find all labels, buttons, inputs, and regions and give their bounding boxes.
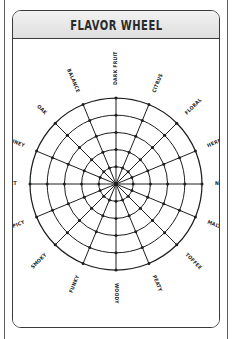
radar-node <box>67 202 70 205</box>
radar-node <box>201 183 204 186</box>
radar-node <box>166 183 169 186</box>
radar-node <box>178 156 181 159</box>
radar-node <box>99 176 102 179</box>
radar-node <box>194 150 197 153</box>
radar-node <box>132 183 135 186</box>
radar-node <box>66 134 69 137</box>
radar-node <box>102 170 105 173</box>
radar-node <box>147 103 150 106</box>
radar-node <box>139 207 142 210</box>
radar-node <box>83 196 86 199</box>
radar-node <box>67 163 70 166</box>
card-body: DARK FRUITCITRUSFLORALHERBALNUTTYMALTYTO… <box>13 39 219 328</box>
radar-node <box>128 151 131 154</box>
radar-node <box>90 207 93 210</box>
radar-axis-label-toffee: TOFFEE <box>184 251 203 270</box>
radar-axis-label-herbal: HERBAL <box>206 134 219 148</box>
flavor-wheel-card: FLAVOR WHEEL DARK FRUITCITRUSFLORALHERBA… <box>12 10 220 328</box>
radar-axis-label-nutty: NUTTY <box>215 180 219 186</box>
radar-node <box>83 169 86 172</box>
page-left-rule <box>4 0 5 339</box>
worksheet-page: FLAVOR WHEEL DARK FRUITCITRUSFLORALHERBA… <box>0 0 232 339</box>
radar-chart-svg: DARK FRUITCITRUSFLORALHERBALNUTTYMALTYTO… <box>13 39 219 328</box>
radar-node <box>115 217 118 220</box>
radar-node <box>82 262 85 265</box>
radar-axis-label-floral: FLORAL <box>183 96 202 115</box>
radar-node <box>102 195 105 198</box>
radar-node <box>134 135 137 138</box>
radar-node <box>121 198 124 201</box>
radar-axis-label-dark-fruit: DARK FRUIT <box>112 51 118 85</box>
radar-node <box>35 150 38 153</box>
radar-node <box>115 200 118 203</box>
radar-node <box>146 196 149 199</box>
radar-node <box>121 167 124 170</box>
radar-node <box>99 189 102 192</box>
radar-node <box>115 165 118 168</box>
card-header: FLAVOR WHEEL <box>13 11 219 39</box>
radar-node <box>115 269 118 272</box>
radar-node <box>115 148 118 151</box>
radar-axis-label-sweet: SWEET <box>13 180 18 186</box>
radar-node <box>51 156 54 159</box>
radar-node <box>80 183 83 186</box>
radar-node <box>108 198 111 201</box>
radar-node <box>35 215 38 218</box>
radar-axis-label-malty: MALTY <box>207 219 219 232</box>
radar-node <box>127 195 130 198</box>
radar-node <box>130 189 133 192</box>
radar-node <box>115 114 118 117</box>
radar-node <box>97 183 100 186</box>
radar-node <box>175 243 178 246</box>
radar-axis-label-peaty: PEATY <box>152 274 164 293</box>
radar-node <box>149 183 152 186</box>
radar-spoke-14 <box>55 123 116 184</box>
radar-node <box>178 209 181 212</box>
radar-spoke-6 <box>116 184 177 245</box>
radar-node <box>54 243 57 246</box>
radar-node <box>108 167 111 170</box>
radar-axis-label-oak: OAK <box>36 103 49 116</box>
radar-node <box>88 246 91 249</box>
radar-spoke-10 <box>55 184 116 245</box>
radar-node <box>141 119 144 122</box>
radar-node <box>95 135 98 138</box>
radar-axis-label-citrus: CITRUS <box>151 72 164 93</box>
radar-node <box>115 234 118 237</box>
radar-node <box>78 146 81 149</box>
radar-node <box>115 251 118 254</box>
page-right-rule <box>227 0 228 339</box>
radar-axis-label-winey: WINEY <box>13 136 26 149</box>
radar-node <box>95 230 98 233</box>
radar-node <box>134 230 137 233</box>
radar-spoke-2 <box>116 123 177 184</box>
radar-node <box>115 97 118 100</box>
radar-node <box>163 231 166 234</box>
radar-node <box>46 183 49 186</box>
radar-node <box>127 170 130 173</box>
page-title: FLAVOR WHEEL <box>70 17 162 33</box>
radar-node <box>139 158 142 161</box>
radar-node <box>162 202 165 205</box>
radar-node <box>63 183 66 186</box>
radar-node <box>141 246 144 249</box>
radar-axis-label-woody: WOODY <box>114 283 120 304</box>
radar-node <box>175 122 178 125</box>
radar-node <box>130 176 133 179</box>
radar-center-hub <box>114 182 118 186</box>
radar-node <box>146 169 149 172</box>
radar-node <box>194 215 197 218</box>
radar-node <box>78 219 81 222</box>
radar-node <box>162 163 165 166</box>
radar-axis-label-funky: FUNKY <box>68 274 81 294</box>
radar-node <box>51 209 54 212</box>
radar-node <box>101 214 104 217</box>
radar-axis-label-spicy: SPICY <box>13 218 26 230</box>
radar-node <box>163 134 166 137</box>
radar-node <box>151 219 154 222</box>
radar-node <box>183 183 186 186</box>
radar-node <box>115 131 118 134</box>
radar-node <box>82 103 85 106</box>
radar-axis-label-balance: BALANCE <box>66 68 81 94</box>
radar-node <box>88 119 91 122</box>
